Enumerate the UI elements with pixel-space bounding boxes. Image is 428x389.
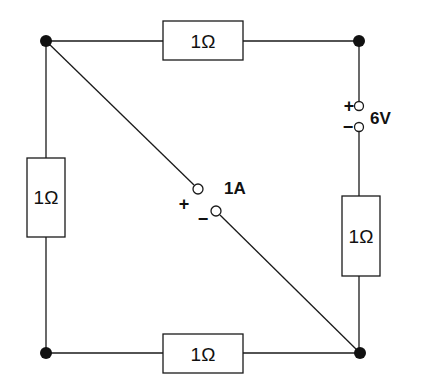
node-bottom-right xyxy=(354,347,366,359)
voltage-label: 6V xyxy=(370,109,391,128)
current-source: + − 1A xyxy=(179,179,246,229)
resistor-right: 1Ω xyxy=(342,196,380,276)
circuit-diagram: 1Ω 1Ω 1Ω 1Ω + − 6V + − 1A xyxy=(0,0,428,389)
current-plus-terminal xyxy=(193,184,203,194)
current-plus-sign: + xyxy=(179,194,190,214)
node-top-right xyxy=(353,35,365,47)
resistor-left-label: 1Ω xyxy=(34,187,59,208)
voltage-plus-terminal xyxy=(355,102,364,111)
voltage-source: + − 6V xyxy=(343,96,392,137)
resistor-top-label: 1Ω xyxy=(191,31,216,52)
wire-diagonal-lower xyxy=(220,215,360,353)
current-minus-sign: − xyxy=(198,209,209,229)
resistor-bottom: 1Ω xyxy=(163,334,243,373)
voltage-minus-sign: − xyxy=(343,117,354,137)
voltage-plus-sign: + xyxy=(344,96,355,116)
resistor-bottom-label: 1Ω xyxy=(191,344,216,365)
voltage-minus-terminal xyxy=(355,123,364,132)
wire-diagonal-upper xyxy=(46,41,194,185)
current-label: 1A xyxy=(224,179,246,198)
current-minus-terminal xyxy=(211,206,221,216)
node-top-left xyxy=(40,35,52,47)
resistor-top: 1Ω xyxy=(163,21,243,60)
resistor-right-label: 1Ω xyxy=(349,226,374,247)
wires xyxy=(46,41,360,353)
resistor-left: 1Ω xyxy=(27,158,65,237)
node-bottom-left xyxy=(40,347,52,359)
